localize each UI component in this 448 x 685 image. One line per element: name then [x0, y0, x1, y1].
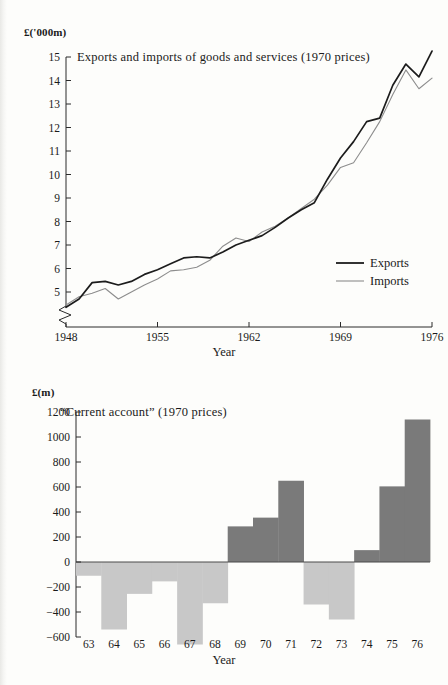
x-axis-tick-label: 73 [336, 638, 348, 650]
legend-label-exports: Exports [370, 256, 409, 271]
x-axis-title: Year [0, 653, 448, 668]
bar-64 [101, 562, 127, 630]
x-axis-tick-label: 76 [412, 638, 424, 650]
y-axis-tick-label: 12 [34, 122, 60, 134]
bar-66 [152, 562, 178, 581]
y-axis-tick-label: 1000 [22, 431, 70, 443]
chart-title: Exports and imports of goods and service… [77, 50, 370, 65]
y-axis-tick-label: 6 [34, 263, 60, 275]
x-axis-tick-label: 72 [310, 638, 322, 650]
y-axis-tick-label: 800 [22, 456, 70, 468]
bar-72 [304, 562, 330, 605]
x-axis-tick-label: 70 [260, 638, 272, 650]
bar-69 [228, 526, 254, 562]
y-axis-tick-label: 1200 [22, 406, 70, 418]
bar-68 [202, 562, 228, 603]
y-axis-break-icon [59, 306, 71, 324]
x-axis-tick-label: 74 [361, 638, 373, 650]
y-axis-unit-label: £('000m) [24, 26, 66, 38]
x-axis-tick-label: 1955 [146, 331, 169, 343]
x-axis-tick-label: 75 [386, 638, 398, 650]
bar-75 [379, 486, 405, 562]
y-axis-tick-label: 8 [34, 216, 60, 228]
x-axis-tick-label: 64 [108, 638, 120, 650]
x-axis-tick-label: 71 [285, 638, 297, 650]
y-axis-tick-label: 9 [34, 192, 60, 204]
bar-76 [405, 420, 431, 563]
x-axis-tick-label: 66 [159, 638, 171, 650]
y-axis-tick-label: 0 [22, 556, 70, 568]
x-axis-tick-label: 1976 [421, 331, 444, 343]
bar-63 [76, 562, 102, 576]
y-axis-tick-label: 11 [34, 145, 60, 157]
figure-exports-imports: £('000m) Exports and imports of goods an… [0, 0, 448, 360]
y-axis-tick-label: 5 [34, 286, 60, 298]
chart-title: “Current account” (1970 prices) [60, 405, 227, 420]
y-axis-tick-label: 13 [34, 98, 60, 110]
bar-73 [329, 562, 355, 620]
y-axis-tick-label: 200 [22, 531, 70, 543]
x-axis-tick-label: 1948 [55, 331, 78, 343]
bar-67 [177, 562, 203, 645]
x-axis-tick-label: 1962 [238, 331, 261, 343]
x-axis-title: Year [0, 345, 448, 360]
x-axis-tick-label: 69 [235, 638, 247, 650]
y-axis-tick-label: 600 [22, 481, 70, 493]
y-axis-tick-label: −600 [22, 631, 70, 643]
y-axis-tick-label: 400 [22, 506, 70, 518]
bar-70 [253, 518, 279, 562]
x-axis-tick-label: 68 [209, 638, 221, 650]
y-axis-tick-label: −400 [22, 606, 70, 618]
figure-current-account: £(m) “Current account” (1970 prices) Yea… [0, 360, 448, 685]
y-axis-tick-label: 14 [34, 75, 60, 87]
y-axis-tick-label: 10 [34, 169, 60, 181]
x-axis-tick-label: 65 [133, 638, 145, 650]
bar-65 [127, 562, 153, 594]
y-axis-tick-label: 7 [34, 239, 60, 251]
x-axis-tick-label: 1969 [329, 331, 352, 343]
bar-74 [354, 550, 380, 562]
y-axis-unit-label: £(m) [32, 386, 54, 398]
y-axis-tick-label: 15 [34, 51, 60, 63]
x-axis-tick-label: 67 [184, 638, 196, 650]
bar-71 [278, 481, 304, 562]
y-axis-tick-label: −200 [22, 581, 70, 593]
x-axis-tick-label: 63 [83, 638, 95, 650]
legend-label-imports: Imports [370, 274, 409, 289]
